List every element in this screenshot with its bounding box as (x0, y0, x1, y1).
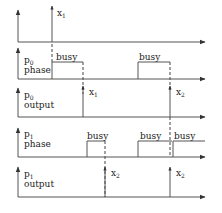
busy-label: busy (174, 131, 196, 141)
event-label-x1: x1 (89, 87, 98, 98)
busy-pulse (173, 141, 205, 157)
row-label-output: output (24, 179, 54, 189)
row-input: x1 (18, 6, 205, 42)
event-label-x2: x2 (111, 168, 120, 179)
busy-label: busy (139, 52, 161, 62)
event-label-x2: x2 (176, 87, 185, 98)
busy-label: busy (140, 131, 162, 141)
row-p1-output: p1 output x2 x2 (18, 167, 205, 197)
row-label-phase: phase (24, 65, 51, 75)
row-p0-output: p0 output x1 x2 (18, 86, 205, 117)
busy-pulse (138, 62, 170, 79)
row-label-phase: phase (24, 139, 51, 149)
event-label-x1: x1 (57, 8, 66, 19)
event-label-x2: x2 (176, 168, 185, 179)
busy-pulse (138, 141, 172, 157)
busy-pulse (87, 141, 105, 157)
busy-label: busy (56, 52, 78, 62)
busy-pulse (52, 62, 83, 79)
row-label-output: output (24, 100, 54, 110)
timing-diagram: x1 p0 phase busy busy p0 output x1 x2 p1… (0, 0, 222, 213)
row-p1-phase: p1 phase busy busy busy (18, 128, 205, 157)
busy-label: busy (87, 131, 109, 141)
row-p0-phase: p0 phase busy busy (18, 48, 205, 79)
